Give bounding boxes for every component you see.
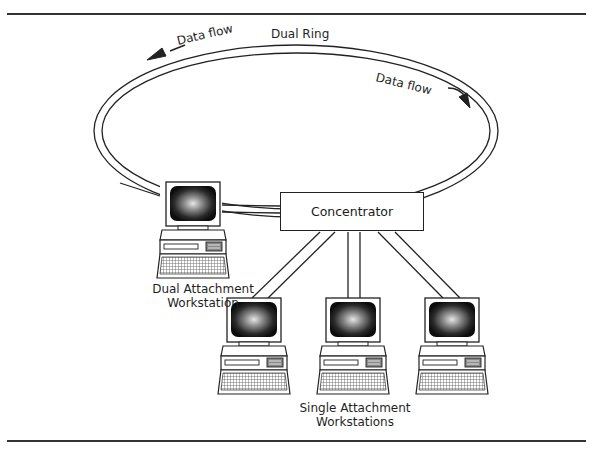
- arrow-right-icon: [448, 88, 470, 108]
- single-attachment-workstation-2: [317, 298, 389, 394]
- dual-attachment-label: Dual Attachment Workstation: [138, 282, 268, 310]
- dual-attachment-workstation: [157, 182, 229, 278]
- single-attachment-label-line1: Single Attachment: [290, 401, 420, 415]
- dual-attachment-label-line2: Workstation: [138, 296, 268, 310]
- concentrator-box: Concentrator: [280, 192, 424, 231]
- station-links: [252, 232, 460, 298]
- single-attachment-label-line2: Workstations: [290, 415, 420, 429]
- ring-label: Dual Ring: [271, 27, 329, 41]
- single-attachment-label: Single Attachment Workstations: [290, 401, 420, 429]
- single-attachment-workstation-1: [218, 298, 290, 394]
- dual-attachment-label-line1: Dual Attachment: [138, 282, 268, 296]
- single-attachment-workstation-3: [416, 298, 488, 394]
- concentrator-label: Concentrator: [311, 204, 393, 219]
